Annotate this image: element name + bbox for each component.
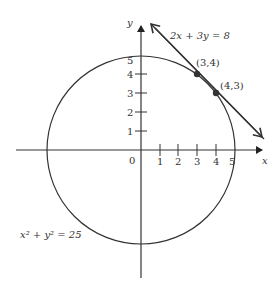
y-tick-label-4: 4 bbox=[127, 69, 133, 80]
y-tick-label-5: 5 bbox=[127, 55, 133, 66]
point-label-4-3: (4,3) bbox=[220, 80, 244, 91]
origin-label: 0 bbox=[129, 155, 135, 166]
y-tick-label-1: 1 bbox=[127, 126, 133, 137]
x-tick-label-3: 3 bbox=[194, 156, 200, 167]
y-tick-label-2: 2 bbox=[127, 107, 133, 118]
x-tick-label-2: 2 bbox=[175, 156, 181, 167]
y-axis-label: y bbox=[126, 17, 133, 28]
x-tick-label-4: 4 bbox=[213, 156, 219, 167]
x-tick-label-5: 5 bbox=[229, 156, 235, 167]
x-tick-label-1: 1 bbox=[157, 156, 163, 167]
coordinate-diagram: y x 0 1 2 3 4 5 1 2 3 4 5 (3,4) (4,3) 2x… bbox=[0, 0, 280, 285]
secant-line-tail bbox=[155, 28, 262, 137]
y-tick-label-3: 3 bbox=[127, 88, 133, 99]
line-equation-label: 2x + 3y = 8 bbox=[169, 30, 230, 41]
circle-equation-label: x² + y² = 25 bbox=[20, 229, 82, 240]
point-label-3-4: (3,4) bbox=[196, 57, 220, 68]
x-axis-label: x bbox=[262, 155, 268, 166]
point-4-3 bbox=[213, 90, 219, 96]
point-3-4 bbox=[194, 71, 200, 77]
